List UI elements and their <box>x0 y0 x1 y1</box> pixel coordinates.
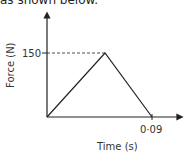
x-tick-009: 0·09 <box>140 124 162 135</box>
y-axis-label: Force (N) <box>5 42 16 88</box>
force-time-chart: 150 0·09 Time (s) Force (N) <box>0 0 186 153</box>
x-axis-label: Time (s) <box>96 141 138 152</box>
force-line <box>47 53 152 117</box>
y-tick-150: 150 <box>22 48 41 59</box>
